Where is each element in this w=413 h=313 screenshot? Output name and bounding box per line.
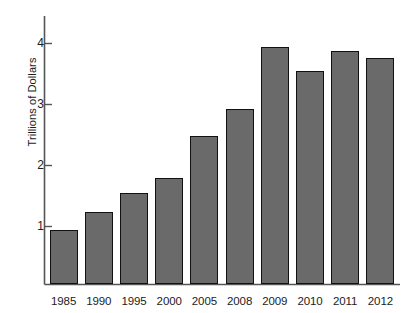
x-tick-label: 2011 [328, 296, 363, 308]
x-tick-label: 1990 [81, 296, 116, 308]
y-tick-label-3: 3 [26, 98, 44, 110]
y-tick-3: 3 [22, 98, 44, 110]
y-axis-ticks [45, 44, 53, 227]
x-tick-label: 2012 [363, 296, 398, 308]
y-tick-2: 2 [22, 159, 44, 171]
bar-chart: Trillions of Dollars 4 3 2 1 19851990199… [0, 0, 413, 313]
x-tick-label: 2000 [152, 296, 187, 308]
y-tick-1: 1 [22, 220, 44, 232]
x-tick-label: 2009 [257, 296, 292, 308]
bar [226, 109, 254, 284]
bar [296, 71, 324, 285]
bar [366, 58, 394, 285]
bar [331, 51, 359, 284]
bar [261, 47, 289, 285]
x-tick-label: 2005 [187, 296, 222, 308]
x-tick-label: 2008 [222, 296, 257, 308]
bar [120, 193, 148, 285]
bar [155, 178, 183, 285]
x-tick-label: 2010 [292, 296, 327, 308]
x-tick-label: 1985 [46, 296, 81, 308]
bar [85, 212, 113, 285]
bar [50, 230, 78, 285]
y-tick-label-4: 4 [26, 37, 44, 49]
bar [190, 136, 218, 284]
y-tick-label-2: 2 [26, 159, 44, 171]
y-tick-label-1: 1 [26, 220, 44, 232]
x-tick-label: 1995 [116, 296, 151, 308]
y-tick-4: 4 [22, 37, 44, 49]
